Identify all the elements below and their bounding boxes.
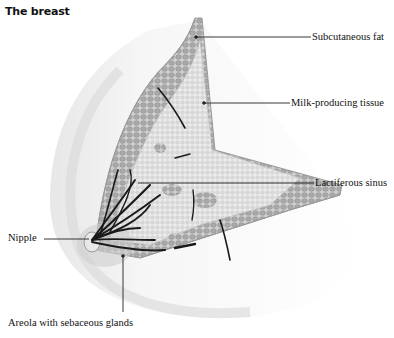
label-nipple: Nipple — [8, 232, 37, 244]
label-areola: Areola with sebaceous glands — [8, 317, 133, 329]
label-lactiferous-sinus: Lactiferous sinus — [315, 177, 387, 189]
label-milk-producing-tissue: Milk-producing tissue — [291, 97, 384, 109]
breast-anatomy-illustration — [0, 0, 394, 338]
label-subcutaneous-fat: Subcutaneous fat — [312, 31, 384, 43]
